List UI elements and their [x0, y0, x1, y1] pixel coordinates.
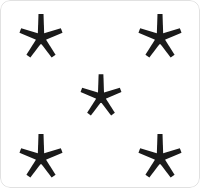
star-hub: [96, 93, 106, 103]
star-hub: [155, 34, 165, 44]
star-ray-0: [157, 134, 164, 156]
star-asterisk-icon: [132, 130, 188, 186]
star-top-left: [13, 10, 69, 66]
star-ray-0: [98, 74, 104, 95]
star-asterisk-icon: [132, 10, 188, 66]
star-ray-0: [38, 14, 45, 36]
star-ray-0: [157, 14, 164, 36]
star-hub: [36, 154, 46, 164]
star-hub: [155, 154, 165, 164]
star-bottom-left: [13, 130, 69, 186]
star-asterisk-icon: [74, 70, 127, 123]
star-ray-0: [38, 134, 45, 156]
star-rating-card: [0, 0, 200, 188]
star-bottom-right: [132, 130, 188, 186]
star-hub: [36, 34, 46, 44]
star-top-right: [132, 10, 188, 66]
star-asterisk-icon: [13, 130, 69, 186]
star-asterisk-icon: [13, 10, 69, 66]
star-center: [74, 70, 127, 123]
